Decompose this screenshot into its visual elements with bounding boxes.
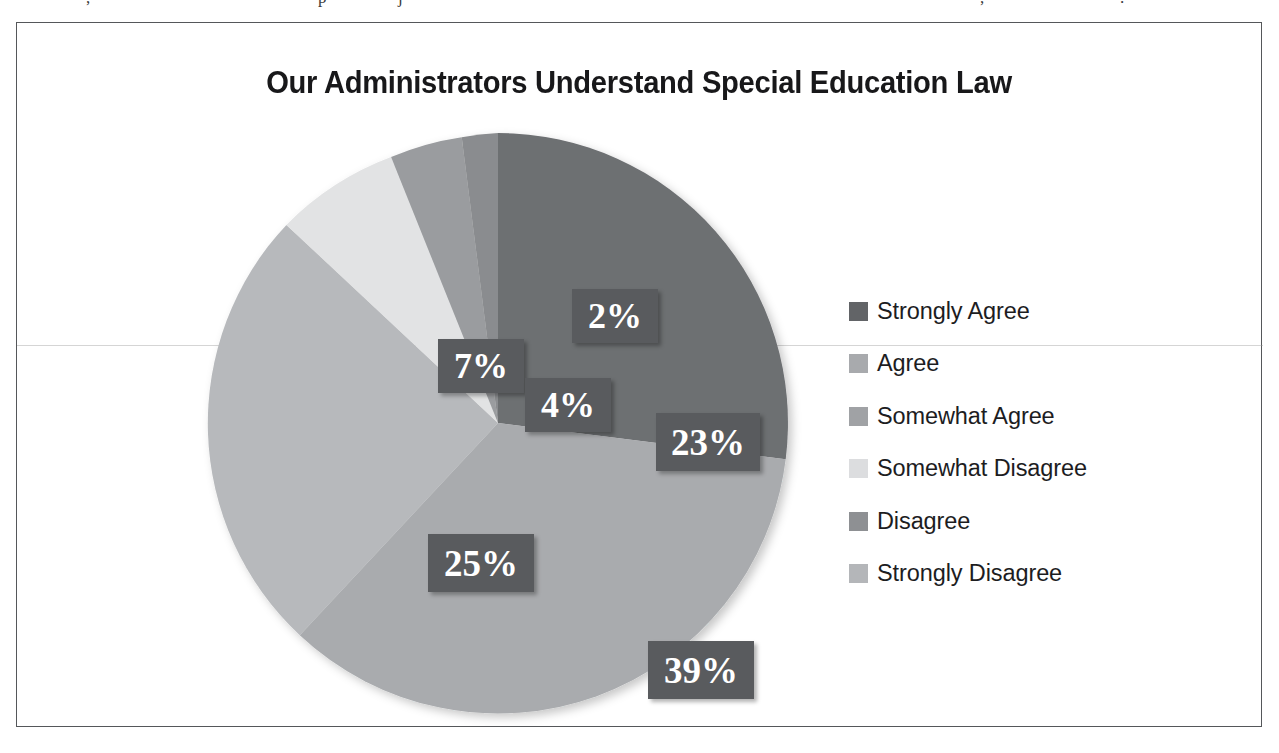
pie-data-label-somewhat-agree: 25% [428, 534, 534, 592]
scan-artifact-mark: p [318, 0, 327, 6]
legend-item-label: Agree [877, 350, 939, 377]
chart-frame: Our Administrators Understand Special Ed… [16, 22, 1262, 727]
legend-item-label: Somewhat Disagree [877, 455, 1087, 482]
pie-chart: 2% 7% 4% 23% 25% 39% [198, 123, 818, 723]
legend-item-disagree: Disagree [849, 495, 1087, 548]
pie-data-label-agree: 39% [648, 641, 754, 699]
legend-swatch-icon [849, 407, 868, 426]
legend-item-label: Somewhat Agree [877, 403, 1055, 430]
pie-data-label-strongly-agree: 23% [656, 413, 760, 471]
legend-item-label: Strongly Disagree [877, 560, 1062, 587]
legend-swatch-icon [849, 512, 868, 531]
scan-artifact-row: , p j , . [0, 0, 1279, 16]
scan-artifact-mark: , [86, 0, 90, 6]
legend-item-strongly-agree: Strongly Agree [849, 285, 1087, 338]
scan-artifact-mark: , [980, 0, 984, 6]
scan-artifact-mark: . [1120, 0, 1124, 6]
legend-item-somewhat-agree: Somewhat Agree [849, 390, 1087, 443]
chart-title: Our Administrators Understand Special Ed… [54, 65, 1223, 101]
scan-artifact-mark: j [398, 0, 403, 6]
legend-swatch-icon [849, 459, 868, 478]
legend-swatch-icon [849, 302, 868, 321]
pie-data-label-disagree: 4% [525, 378, 611, 432]
legend-item-strongly-disagree: Strongly Disagree [849, 548, 1087, 601]
legend-swatch-icon [849, 354, 868, 373]
pie-data-label-somewhat-disagree: 7% [438, 339, 524, 393]
chart-legend: Strongly Agree Agree Somewhat Agree Some… [849, 285, 1087, 600]
legend-item-agree: Agree [849, 338, 1087, 391]
pie-data-label-strongly-disagree: 2% [572, 289, 658, 343]
legend-item-label: Strongly Agree [877, 298, 1030, 325]
legend-item-label: Disagree [877, 508, 970, 535]
legend-item-somewhat-disagree: Somewhat Disagree [849, 443, 1087, 496]
legend-swatch-icon [849, 564, 868, 583]
